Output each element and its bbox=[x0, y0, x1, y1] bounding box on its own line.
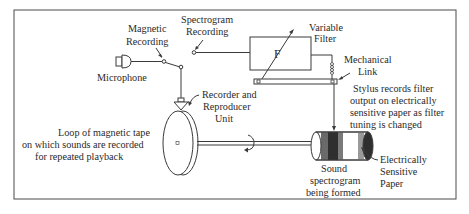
magnetic-recording-label-2: Recording bbox=[126, 36, 168, 47]
spectrogram-label-2: spectrogram bbox=[310, 175, 360, 186]
paper-label-3: Paper bbox=[380, 178, 404, 189]
rotation-arrow-icon bbox=[246, 135, 254, 150]
mechanical-link-bar bbox=[254, 79, 337, 84]
magnetic-recording-label-1: Magnetic bbox=[128, 23, 167, 34]
coil-icon bbox=[331, 63, 334, 75]
tape-loop-label-2: on which sounds are recorded bbox=[22, 139, 144, 150]
spectrogram-label-3: being formed bbox=[306, 187, 361, 198]
stylus-note-4: tuning is changed bbox=[350, 119, 422, 130]
switch bbox=[162, 51, 196, 69]
microphone-icon bbox=[116, 55, 131, 68]
paper-label-2: Sensitive bbox=[380, 166, 418, 177]
recorder-reproducer-head-icon bbox=[174, 98, 188, 110]
microphone-label: Microphone bbox=[97, 72, 147, 83]
drum-icon bbox=[311, 132, 373, 160]
variable-filter-label-2: Filter bbox=[314, 33, 337, 44]
sound-spectrograph-diagram: Microphone Magnetic Recording Spectrogra… bbox=[0, 0, 469, 214]
stylus-note-1: Stylus records filter bbox=[353, 83, 434, 94]
spectrogram-recording-label-2: Recording bbox=[186, 26, 228, 37]
spectrogram-recording-label-1: Spectrogram bbox=[181, 14, 233, 25]
stylus-note-2: output on electrically bbox=[350, 95, 437, 106]
tape-loop-disk-icon bbox=[163, 111, 198, 175]
tape-loop-label-3: for repeated playback bbox=[35, 151, 124, 162]
recorder-label-2: Reproducer bbox=[203, 101, 251, 112]
stylus-note-3: sensitive paper as filter bbox=[350, 107, 445, 118]
recorder-label-1: Recorder and bbox=[202, 89, 257, 100]
variable-filter-label-1: Variable bbox=[309, 22, 343, 33]
recorder-label-3: Unit bbox=[215, 113, 233, 124]
shaft bbox=[197, 142, 318, 146]
tape-loop-label-1: Loop of magnetic tape bbox=[58, 127, 150, 138]
spectrogram-label-1: Sound bbox=[321, 163, 347, 174]
paper-label-1: Electrically bbox=[380, 154, 428, 165]
mechanical-link-label-1: Mechanical bbox=[344, 54, 392, 65]
mechanical-link-label-2: Link bbox=[358, 66, 378, 77]
